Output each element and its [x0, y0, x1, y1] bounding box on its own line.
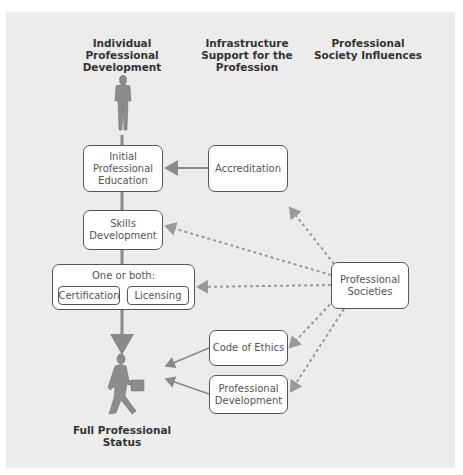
walking-person-icon [0, 0, 463, 475]
full-professional-status-caption: Full Professional Status [62, 424, 182, 448]
